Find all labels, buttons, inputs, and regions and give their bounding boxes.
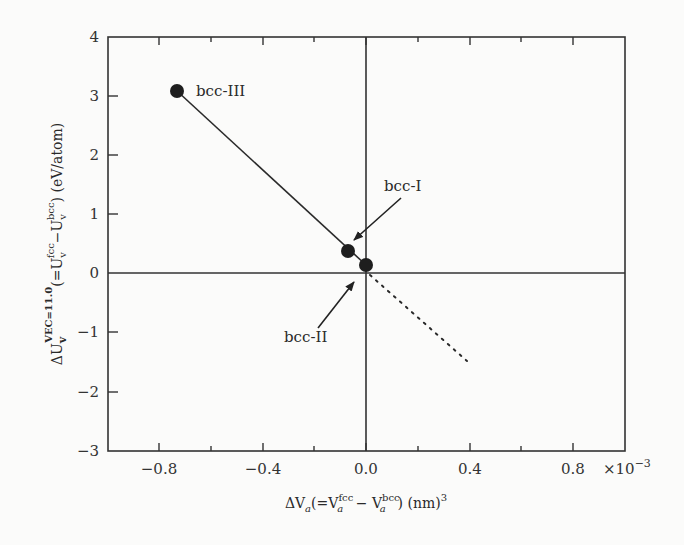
x-multiplier: ×10−3 bbox=[603, 457, 651, 478]
x-ticks-bottom bbox=[159, 443, 573, 451]
y-axis-title: ΔUvVEC=11.0(=Uvfcc−Uvbcc) (eV/atom) bbox=[43, 123, 69, 365]
extrapolation-line bbox=[370, 275, 467, 361]
y-tick-label: 2 bbox=[89, 146, 99, 164]
fit-line bbox=[177, 91, 366, 265]
y-tick-label: 1 bbox=[89, 205, 99, 223]
data-point-bcc-ii bbox=[359, 258, 373, 272]
arrow-bcc-ii bbox=[318, 282, 354, 328]
x-tick-labels: −0.8 −0.4 0.0 0.4 0.8 bbox=[141, 460, 585, 478]
x-tick-label: −0.8 bbox=[141, 460, 177, 478]
arrow-bcc-i bbox=[354, 198, 401, 240]
y-tick-label: −1 bbox=[77, 323, 99, 341]
chart-canvas: −0.8 −0.4 0.0 0.4 0.8 ×10−3 4 3 2 1 0 −1… bbox=[0, 0, 684, 545]
x-tick-label: 0.4 bbox=[458, 460, 482, 478]
x-tick-label: 0.0 bbox=[354, 460, 378, 478]
y-tick-labels: 4 3 2 1 0 −1 −2 −3 bbox=[77, 28, 99, 460]
x-tick-label: −0.4 bbox=[245, 460, 281, 478]
x-tick-label: 0.8 bbox=[561, 460, 585, 478]
annotation-bcc-i: bcc-I bbox=[384, 177, 421, 195]
data-point-bcc-i bbox=[341, 244, 355, 258]
y-tick-label: −2 bbox=[77, 383, 99, 401]
y-tick-label: −3 bbox=[77, 442, 99, 460]
x-ticks-top bbox=[159, 37, 573, 45]
x-axis-title: ΔVa(=Vfcca − Vbcca) (nm)3 bbox=[285, 492, 447, 514]
data-point-bcc-iii bbox=[170, 84, 184, 98]
annotation-bcc-iii: bcc-III bbox=[196, 82, 245, 100]
y-ticks-left bbox=[108, 96, 118, 392]
y-tick-label: 0 bbox=[89, 264, 99, 282]
y-tick-label: 3 bbox=[89, 87, 99, 105]
y-tick-label: 4 bbox=[89, 28, 99, 46]
annotation-bcc-ii: bcc-II bbox=[284, 328, 327, 346]
